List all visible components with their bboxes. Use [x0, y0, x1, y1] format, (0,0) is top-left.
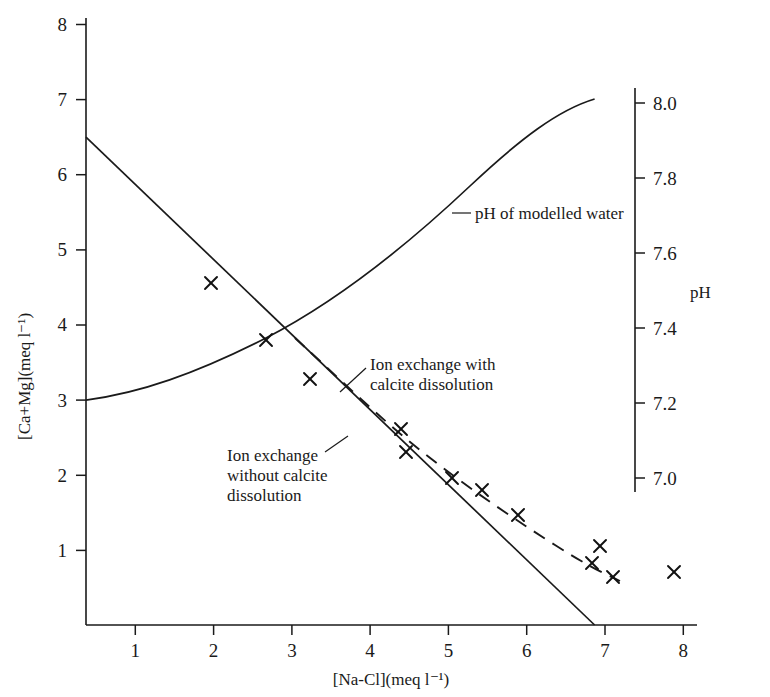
data-point	[304, 373, 316, 385]
y-tick-label: 1	[58, 540, 68, 561]
y2-tick-label: 8.0	[653, 93, 677, 114]
annotation-ion-exchange-with-calcite-line2: calcite dissolution	[370, 375, 494, 394]
annotation-ion-exchange-without-calcite-line1: Ion exchange	[227, 446, 318, 465]
y2-tick-label: 7.2	[653, 393, 677, 414]
y2-axis-label: pH	[690, 283, 711, 302]
chart-canvas: 8 7 6 5 4 3 2 1 1 2 3 4 5 6 7 8 8.0 7.8 …	[0, 0, 770, 697]
series-ph-modelled-water	[86, 99, 595, 400]
data-point	[668, 566, 680, 578]
annotation-ion-exchange-without-calcite-line3: dissolution	[227, 486, 302, 505]
data-point	[476, 484, 488, 496]
data-point	[205, 277, 217, 289]
data-point-markers	[205, 277, 680, 583]
annotation-ion-exchange-with-calcite-line1: Ion exchange with	[370, 355, 496, 374]
without-calcite-leader	[325, 436, 348, 452]
x-axis-label: [Na-Cl](meq l⁻¹)	[333, 670, 450, 689]
y2-tick-label: 7.6	[653, 243, 677, 264]
x-tick-label: 2	[209, 640, 219, 661]
y-tick-label: 3	[58, 390, 68, 411]
data-point	[594, 540, 606, 552]
x-tick-label: 3	[287, 640, 297, 661]
y-tick-label: 2	[58, 465, 68, 486]
y-tick-label: 8	[58, 14, 68, 35]
x-tick-label: 1	[131, 640, 141, 661]
y-tick-label: 7	[58, 89, 68, 110]
data-point	[400, 446, 412, 458]
y-tick-label: 4	[58, 314, 68, 335]
annotation-ph-of-modelled-water: pH of modelled water	[475, 204, 624, 223]
left-axis	[76, 18, 86, 625]
x-tick-label: 7	[600, 640, 610, 661]
y-tick-label: 6	[58, 164, 68, 185]
chart-figure: 8 7 6 5 4 3 2 1 1 2 3 4 5 6 7 8 8.0 7.8 …	[0, 0, 770, 697]
with-calcite-leader	[340, 368, 366, 392]
y-axis-label: [Ca+Mg](meq l⁻¹)	[15, 313, 34, 440]
x-tick-label: 6	[522, 640, 532, 661]
x-tick-label: 4	[365, 640, 375, 661]
right-ph-axis	[635, 88, 645, 492]
x-tick-label: 5	[444, 640, 454, 661]
y2-tick-label: 7.8	[653, 168, 677, 189]
y2-tick-label: 7.0	[653, 468, 677, 489]
x-tick-label: 8	[679, 640, 689, 661]
bottom-axis	[86, 625, 697, 635]
y-tick-label: 5	[58, 239, 68, 260]
data-point	[512, 509, 524, 521]
annotation-ion-exchange-without-calcite-line2: without calcite	[227, 466, 328, 485]
y2-tick-label: 7.4	[653, 318, 677, 339]
data-point	[607, 571, 619, 583]
